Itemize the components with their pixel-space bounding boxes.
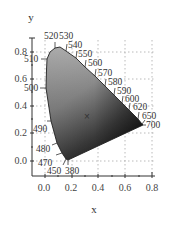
x-tick-label: 0.6 — [119, 182, 132, 193]
y-axis-title: y — [28, 11, 34, 23]
x-tick-labels: 0.0 0.2 0.4 0.6 0.8 — [38, 182, 159, 193]
wl-480: 480 — [36, 144, 51, 154]
y-tick-label: 0.0 — [15, 155, 28, 166]
x-tick-label: 0.8 — [146, 182, 159, 193]
y-tick-labels: 0.8 0.6 0.4 0.2 0.0 — [15, 46, 28, 166]
wl-380: 380 — [65, 166, 80, 176]
x-tick-label: 0.4 — [92, 182, 105, 193]
wl-500: 500 — [24, 83, 39, 93]
wl-490: 490 — [33, 124, 48, 134]
wl-700: 700 — [146, 120, 161, 130]
chromaticity-diagram: × 0.8 0.6 0.4 0.2 0.0 0.0 0.2 — [0, 0, 173, 228]
wl-450: 450 — [47, 166, 62, 176]
x-axis-title: x — [91, 203, 97, 215]
y-tick-label: 0.4 — [15, 100, 28, 111]
white-point-marker: × — [84, 111, 90, 122]
x-tick-label: 0.0 — [38, 182, 51, 193]
wl-510: 510 — [24, 54, 39, 64]
y-tick-label: 0.2 — [15, 127, 28, 138]
x-tick-label: 0.2 — [65, 182, 78, 193]
wl-560: 560 — [88, 58, 103, 68]
wl-520: 520 — [44, 31, 59, 41]
